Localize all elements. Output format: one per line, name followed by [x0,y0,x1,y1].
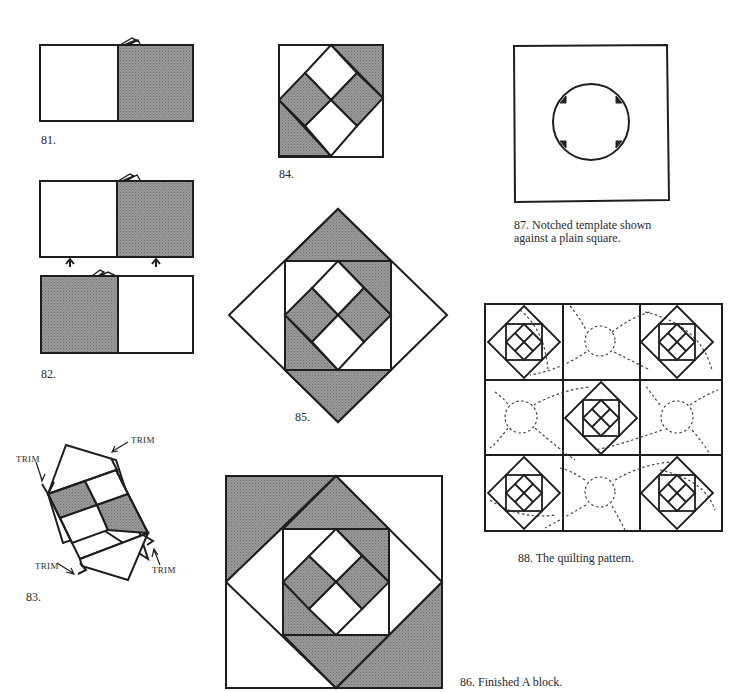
caption-83: 83. [26,590,41,604]
figure-83-trim-diagram [36,442,160,580]
caption-87-line2: against a plain square. [514,231,621,245]
caption-85: 85. [295,410,310,424]
figure-82-strip-pairs [40,174,193,353]
figure-84-partial-block [279,45,383,157]
block-2 [641,306,713,378]
block-1 [488,306,560,378]
trim-label-bottom-right: TRIM [152,565,176,575]
illustration-page [0,0,745,692]
caption-84: 84. [279,167,294,181]
caption-82: 82. [41,367,56,381]
figure-85-square-in-square [229,209,447,422]
caption-86: 86. Finished A block. [460,675,562,689]
block-3 [565,382,637,454]
figure-81-two-patch [40,38,193,121]
trim-label-top-left: TRIM [16,454,40,464]
block-5 [641,457,713,529]
caption-88: 88. The quilting pattern. [518,551,634,565]
figure-86-finished-block [226,476,442,688]
caption-81: 81. [41,133,56,147]
caption-87-line1: 87. Notched template shown [514,218,651,232]
figure-88-quilting-pattern [485,304,722,531]
trim-label-bottom-left: TRIM [35,561,59,571]
block-4 [488,457,560,529]
trim-label-top-right: TRIM [131,435,155,445]
figure-87-notched-template [514,45,669,202]
